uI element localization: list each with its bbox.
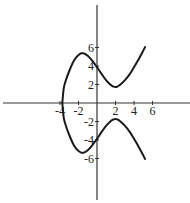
- x-tick-label: 2: [113, 104, 119, 118]
- curve-upper-branch: [62, 47, 145, 103]
- axes: [3, 5, 190, 200]
- y-tick-label: 6: [88, 41, 94, 55]
- y-tick-label: -6: [84, 152, 94, 166]
- elliptic-curve-chart: -4-2246642-2-4-6: [0, 0, 190, 203]
- x-tick-label: 6: [150, 104, 156, 118]
- x-tick-label: 4: [131, 104, 137, 118]
- y-tick-label: 2: [88, 78, 94, 92]
- y-tick-label: -2: [84, 115, 94, 129]
- x-tick-label: -2: [74, 104, 84, 118]
